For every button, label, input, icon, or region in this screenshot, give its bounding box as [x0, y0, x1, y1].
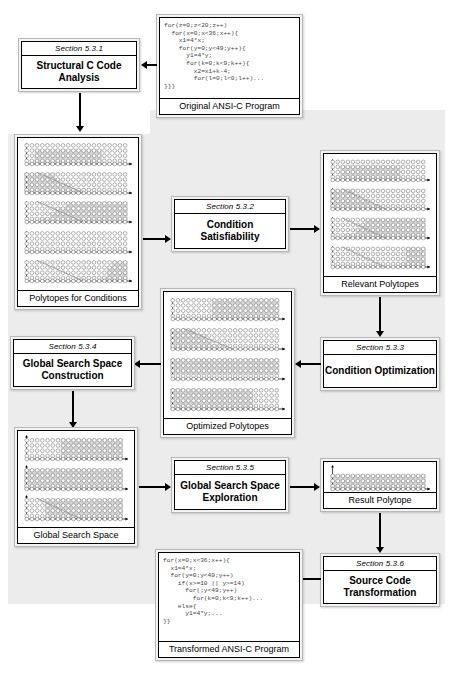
section-title: Global Search Space Construction	[14, 354, 131, 386]
node-section-534[interactable]: Section 5.3.4 Global Search Space Constr…	[10, 336, 135, 390]
node-caption: Transformed ANSI-C Program	[159, 642, 299, 657]
section-title: Structural C Code Analysis	[22, 56, 136, 88]
section-title: Global Search Space Exploration	[175, 475, 285, 509]
section-title: Condition Satisfiability	[175, 214, 285, 248]
section-number: Section 5.3.6	[324, 557, 436, 571]
plot-item	[328, 246, 432, 271]
node-caption: Relevant Polytopes	[324, 277, 436, 292]
node-global-search-space: Global Search Space	[14, 427, 138, 547]
code-panel: for(x=0;x<36;x++){ x1=4*x; for(y=0;y<49;…	[159, 553, 299, 642]
node-caption: Original ANSI-C Program	[160, 99, 299, 114]
section-number: Section 5.3.1	[22, 42, 136, 56]
node-caption: Polytopes for Conditions	[18, 291, 138, 306]
plot-item	[22, 201, 134, 226]
arrow-original-to-531	[141, 64, 157, 66]
node-caption: Global Search Space	[18, 528, 134, 543]
plot-item	[22, 260, 134, 285]
plot-stack	[164, 292, 291, 418]
node-result-polytope: Result Polytope	[320, 458, 440, 512]
node-section-531[interactable]: Section 5.3.1 Structural C Code Analysis	[18, 38, 140, 92]
node-body: Section 5.3.4 Global Search Space Constr…	[13, 339, 132, 387]
arrow-534-to-gss	[72, 391, 74, 428]
plot-item	[22, 495, 130, 523]
diagram-canvas: for(z=0;z<20;z++) for(x=0;x<36;x++){ x1=…	[0, 0, 453, 673]
node-polytopes-for-conditions: Polytopes for Conditions	[14, 134, 142, 310]
node-caption: Result Polytope	[324, 493, 436, 508]
plot-stack	[324, 154, 436, 276]
node-section-532[interactable]: Section 5.3.2 Condition Satisfiability	[171, 196, 289, 252]
plot-item	[328, 159, 432, 184]
plot-stack	[18, 431, 134, 527]
transformed-code-text: for(x=0;x<36;x++){ x1=4*x; for(y=0;y<49;…	[159, 553, 299, 625]
section-number: Section 5.3.3	[324, 341, 436, 355]
node-caption: Optimized Polytopes	[164, 419, 291, 434]
node-body: Section 5.3.1 Structural C Code Analysis	[21, 41, 137, 89]
node-body: for(z=0;z<20;z++) for(x=0;x<36;x++){ x1=…	[159, 17, 300, 115]
plot-item	[168, 358, 287, 383]
arrow-533-to-optimized	[295, 363, 321, 365]
node-body: Section 5.3.2 Condition Satisfiability	[174, 199, 286, 249]
original-code-text: for(z=0;z<20;z++) for(x=0;x<36;x++){ x1=…	[160, 18, 299, 90]
section-number: Section 5.3.4	[14, 340, 131, 354]
node-optimized-polytopes: Optimized Polytopes	[160, 288, 295, 438]
polytope-panel	[164, 292, 291, 419]
arrow-535-to-result	[290, 486, 320, 488]
plot-item	[168, 328, 287, 353]
arrow-relevant-to-533	[379, 297, 381, 337]
arrow-polytopes-to-532	[143, 238, 171, 240]
node-transformed-program: for(x=0;x<36;x++){ x1=4*x; for(y=0;y<49;…	[155, 549, 303, 661]
arrow-optimized-to-534	[134, 363, 161, 365]
plot-item	[328, 465, 432, 493]
polytope-panel	[324, 154, 436, 277]
node-body: Section 5.3.6 Source Code Transformation	[323, 556, 437, 604]
arrow-result-to-536	[379, 513, 381, 553]
node-body: for(x=0;x<36;x++){ x1=4*x; for(y=0;y<49;…	[158, 552, 300, 658]
node-section-533[interactable]: Section 5.3.3 Condition Optimization	[320, 337, 440, 391]
node-relevant-polytopes: Relevant Polytopes	[320, 150, 440, 296]
node-body: Relevant Polytopes	[323, 153, 437, 293]
polytope-panel	[18, 138, 138, 291]
arrow-531-to-polytopes	[79, 93, 81, 132]
section-number: Section 5.3.2	[175, 200, 285, 214]
node-body: Polytopes for Conditions	[17, 137, 139, 307]
section-number: Section 5.3.5	[175, 461, 285, 475]
plot-item	[22, 172, 134, 197]
node-body: Section 5.3.5 Global Search Space Explor…	[174, 460, 286, 510]
plot-item	[168, 298, 287, 323]
plot-item	[328, 217, 432, 242]
node-body: Section 5.3.3 Condition Optimization	[323, 340, 437, 388]
node-body: Optimized Polytopes	[163, 291, 292, 435]
node-body: Result Polytope	[323, 461, 437, 509]
polytope-panel	[18, 431, 134, 528]
plot-item	[22, 465, 130, 493]
node-section-536[interactable]: Section 5.3.6 Source Code Transformation	[320, 553, 440, 607]
plot-item	[22, 231, 134, 256]
arrow-532-to-relevant	[290, 228, 320, 230]
node-body: Global Search Space	[17, 430, 135, 544]
plot-item	[22, 435, 130, 463]
plot-item	[168, 388, 287, 413]
section-title: Source Code Transformation	[324, 571, 436, 603]
node-original-program: for(z=0;z<20;z++) for(x=0;x<36;x++){ x1=…	[156, 14, 303, 118]
node-section-535[interactable]: Section 5.3.5 Global Search Space Explor…	[171, 457, 289, 513]
plot-stack	[324, 462, 436, 492]
plot-item	[328, 188, 432, 213]
code-panel: for(z=0;z<20;z++) for(x=0;x<36;x++){ x1=…	[160, 18, 299, 99]
polytope-panel	[324, 462, 436, 493]
plot-item	[22, 143, 134, 168]
arrow-gss-to-535	[139, 486, 171, 488]
section-title: Condition Optimization	[324, 355, 436, 387]
plot-stack	[18, 138, 138, 290]
